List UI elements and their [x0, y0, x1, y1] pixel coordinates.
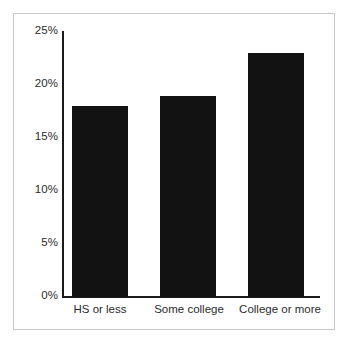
y-tick-label-10: 10% — [14, 184, 58, 196]
x-tick-label-college-or-more: College or more — [236, 303, 324, 316]
y-tick-label-25: 25% — [14, 25, 58, 37]
y-tick-label-15: 15% — [14, 131, 58, 143]
y-tick-label-5: 5% — [14, 237, 58, 249]
x-tick-label-hs-or-less: HS or less — [64, 303, 136, 316]
bar-college-or-more — [248, 53, 304, 297]
plot-area: 25% 20% 15% 10% 5% 0% HS or less Some co… — [0, 0, 348, 345]
bar-chart-figure: 25% 20% 15% 10% 5% 0% HS or less Some co… — [0, 0, 348, 345]
x-tick-label-some-college: Some college — [148, 303, 230, 316]
y-tick-label-20: 20% — [14, 78, 58, 90]
bar-hs-or-less — [72, 106, 128, 297]
y-tick-label-0: 0% — [14, 290, 58, 302]
bar-some-college — [160, 96, 216, 297]
y-axis-line — [62, 31, 64, 297]
